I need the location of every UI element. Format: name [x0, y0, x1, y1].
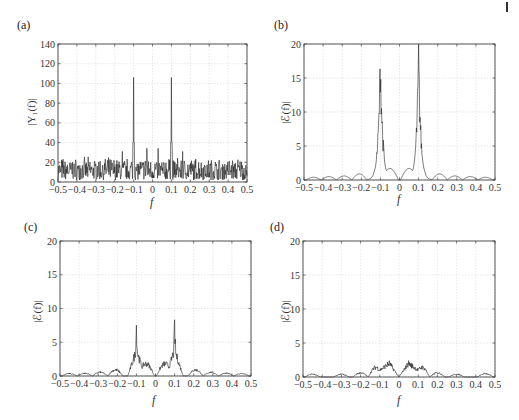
x-tick-label: −0.4 — [70, 378, 88, 389]
x-tick-label: 0.1 — [165, 184, 178, 195]
plot-area: −0.5−0.4−0.3−0.2−0.100.10.20.30.40.50510… — [0, 210, 260, 420]
x-tick-label: −0.4 — [313, 379, 331, 390]
y-tick-label: 0 — [52, 371, 57, 382]
grid-lines — [60, 241, 251, 376]
x-tick-label: 0.4 — [470, 182, 483, 193]
x-tick-label: 0.4 — [470, 379, 483, 390]
chart-panel-a: (a) |Y₁(f)| f −0.5−0.4−0.3−0.2−0.100.10.… — [0, 0, 260, 210]
chart-panel-d: (d) |ℰ(f)| f −0.5−0.4−0.3−0.2−0.100.10.2… — [260, 210, 519, 420]
x-tick-label: 0.1 — [168, 378, 181, 389]
x-tick-label: 0 — [150, 184, 155, 195]
y-tick-label: 10 — [291, 107, 301, 118]
y-tick-label: 20 — [291, 39, 301, 50]
x-tick-label: 0.5 — [489, 379, 502, 390]
x-tick-label: −0.1 — [371, 379, 389, 390]
x-tick-label: −0.3 — [89, 378, 107, 389]
x-tick-label: −0.1 — [125, 184, 143, 195]
y-tick-label: 20 — [45, 157, 55, 168]
x-tick-label: −0.4 — [314, 182, 332, 193]
y-tick-label: 5 — [52, 337, 57, 348]
x-tick-label: 0.5 — [245, 378, 258, 389]
y-tick-label: 120 — [40, 58, 55, 69]
x-tick-label: −0.2 — [108, 378, 126, 389]
y-tick-label: 5 — [296, 141, 301, 152]
y-tick-label: 40 — [45, 137, 55, 148]
x-tick-label: 0.4 — [222, 184, 235, 195]
x-tick-label: 0.3 — [203, 184, 216, 195]
x-tick-label: −0.4 — [68, 184, 86, 195]
plot-area: −0.5−0.4−0.3−0.2−0.100.10.20.30.40.50204… — [0, 0, 260, 210]
y-tick-label: 15 — [47, 269, 57, 280]
y-tick-label: 60 — [45, 117, 55, 128]
y-tick-label: 0 — [295, 372, 300, 383]
x-tick-label: 0.2 — [184, 184, 197, 195]
x-tick-label: 0.5 — [489, 182, 502, 193]
x-tick-label: 0.2 — [431, 182, 444, 193]
y-tick-label: 0 — [50, 177, 55, 188]
y-tick-label: 15 — [290, 270, 300, 281]
y-tick-label: 10 — [290, 304, 300, 315]
y-tick-label: 80 — [45, 98, 55, 109]
x-tick-label: −0.2 — [352, 379, 370, 390]
y-tick-label: 0 — [296, 175, 301, 186]
y-tick-label: 10 — [47, 303, 57, 314]
x-tick-label: −0.3 — [87, 184, 105, 195]
grid-lines — [303, 241, 495, 377]
x-tick-label: 0 — [397, 379, 402, 390]
grid-lines — [304, 44, 495, 180]
x-tick-label: 0.2 — [187, 378, 200, 389]
x-tick-label: 0.3 — [450, 379, 463, 390]
x-tick-label: 0.4 — [226, 378, 239, 389]
x-tick-label: 0.2 — [431, 379, 444, 390]
y-tick-label: 20 — [47, 236, 57, 247]
plot-area: −0.5−0.4−0.3−0.2−0.100.10.20.30.40.50510… — [260, 210, 519, 420]
x-tick-label: −0.2 — [352, 182, 370, 193]
x-tick-label: −0.2 — [106, 184, 124, 195]
x-tick-label: 0 — [397, 182, 402, 193]
x-tick-label: 0.5 — [241, 184, 254, 195]
y-tick-label: 5 — [295, 338, 300, 349]
x-tick-label: −0.1 — [127, 378, 145, 389]
y-tick-label: 20 — [290, 236, 300, 247]
y-tick-label: 15 — [291, 73, 301, 84]
x-tick-label: 0.3 — [207, 378, 220, 389]
x-tick-label: −0.3 — [332, 379, 350, 390]
x-tick-label: 0.3 — [451, 182, 464, 193]
y-tick-label: 100 — [40, 78, 55, 89]
y-tick-label: 140 — [40, 39, 55, 50]
x-tick-label: 0 — [153, 378, 158, 389]
chart-panel-c: (c) |ℰ(f)| f −0.5−0.4−0.3−0.2−0.100.10.2… — [0, 210, 260, 420]
x-tick-label: −0.1 — [371, 182, 389, 193]
x-tick-label: 0.1 — [412, 182, 425, 193]
x-tick-label: 0.1 — [412, 379, 425, 390]
x-tick-label: −0.3 — [333, 182, 351, 193]
chart-panel-b: (b) |ℰ(f)| f −0.5−0.4−0.3−0.2−0.100.10.2… — [260, 0, 519, 210]
plot-area: −0.5−0.4−0.3−0.2−0.100.10.20.30.40.50510… — [260, 0, 519, 210]
